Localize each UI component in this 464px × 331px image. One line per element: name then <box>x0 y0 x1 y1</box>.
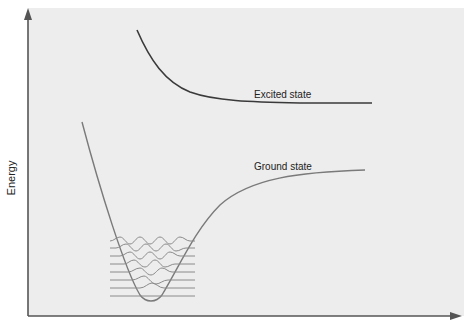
y-axis-label: Energy <box>5 160 17 195</box>
excited-state-label: Excited state <box>254 89 312 100</box>
diagram-canvas: Energy Excited state Ground state <box>0 0 464 331</box>
ground-state-label: Ground state <box>254 161 312 172</box>
